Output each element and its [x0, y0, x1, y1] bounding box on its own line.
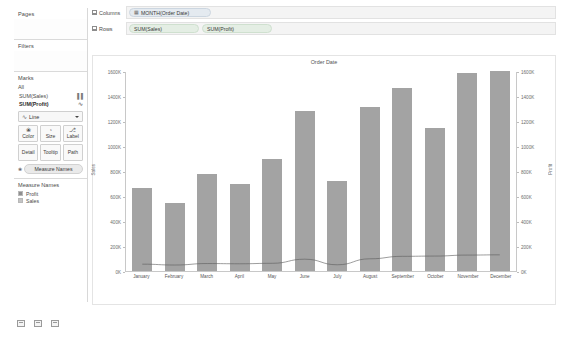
filters-title: Filters: [14, 40, 87, 51]
legend-title: Measure Names: [14, 179, 87, 190]
pages-title: Pages: [14, 8, 87, 19]
pages-dropzone[interactable]: [14, 19, 87, 39]
axis-tick-mark: [517, 247, 519, 248]
line-chart-icon: ∿: [78, 101, 83, 107]
axis-tick-mark: [517, 197, 519, 198]
mark-type-label: Line: [29, 114, 39, 120]
line-mark-icon: ∿: [22, 113, 27, 120]
marks-item-sum-profit[interactable]: SUM(Profit) ∿: [14, 100, 87, 109]
new-story-icon[interactable]: [51, 320, 59, 327]
y-axis-profit-label: Profit: [548, 164, 553, 175]
axis-tick-label: 400K: [521, 220, 532, 225]
new-worksheet-icon[interactable]: [17, 320, 25, 327]
marks-item-all[interactable]: All: [14, 83, 87, 92]
legend-item-sales-label: Sales: [26, 198, 39, 204]
axis-tick-label: 200K: [521, 245, 532, 250]
y-axis-profit[interactable]: Profit 0K200K400K600K800K1000K1200K1400K…: [517, 72, 555, 272]
measure-names-pill[interactable]: ❀ Measure Names: [18, 164, 83, 174]
x-axis-month-label[interactable]: November: [452, 274, 485, 286]
shelf-area: Columns ▦ MONTH(Order Date) Rows SUM(Sal…: [92, 6, 556, 38]
legend-item-profit[interactable]: Profit: [14, 190, 87, 197]
marks-buttons-row-1: ❀ Color ◔ Size ⎇ Label: [18, 125, 83, 142]
x-axis-month-label[interactable]: December: [484, 274, 517, 286]
x-axis-month-label[interactable]: August: [354, 274, 387, 286]
size-button[interactable]: ◔ Size: [40, 125, 60, 142]
axis-tick-label: 0K: [521, 270, 527, 275]
axis-tick-label: 1200K: [521, 120, 534, 125]
marks-sum-profit-label: SUM(Profit): [19, 101, 49, 107]
chevron-down-icon[interactable]: [75, 116, 79, 118]
filters-dropzone[interactable]: [14, 51, 87, 71]
calendar-icon: ▦: [134, 10, 139, 15]
axis-tick-mark: [517, 222, 519, 223]
x-axis-month-label[interactable]: March: [190, 274, 223, 286]
marks-item-sum-sales[interactable]: SUM(Sales) ▐▐: [14, 92, 87, 101]
pill-sum-sales[interactable]: SUM(Sales): [129, 24, 199, 33]
mark-type-dropdown[interactable]: ∿ Line: [18, 111, 83, 122]
axis-tick-mark: [517, 172, 519, 173]
legend-item-profit-label: Profit: [26, 191, 38, 197]
x-axis-month-label[interactable]: May: [256, 274, 289, 286]
rows-shelf-dropzone[interactable]: SUM(Sales) SUM(Profit): [126, 22, 556, 35]
measure-names-pill-label: Measure Names: [24, 164, 83, 174]
chart-canvas[interactable]: Order Date Sales 0K200K400K600K800K1000K…: [92, 55, 556, 305]
rows-shelf-label-group: Rows: [92, 26, 126, 32]
chart-title: Order Date: [93, 59, 555, 65]
axis-tick-mark: [517, 72, 519, 73]
detail-button[interactable]: Detail: [18, 144, 38, 161]
size-label: Size: [46, 134, 56, 139]
tooltip-label: Tooltip: [43, 150, 57, 155]
x-axis-month-label[interactable]: September: [386, 274, 419, 286]
label-button[interactable]: ⎇ Label: [63, 125, 83, 142]
pill-month-order-date[interactable]: ▦ MONTH(Order Date): [129, 8, 211, 17]
pages-card[interactable]: Pages: [14, 8, 87, 40]
label-label: Label: [67, 134, 79, 139]
axis-tick-label: 1600K: [521, 70, 534, 75]
axis-tick-label: 600K: [110, 195, 121, 200]
columns-shelf: Columns ▦ MONTH(Order Date): [92, 6, 556, 19]
pill-month-order-date-label: MONTH(Order Date): [141, 10, 189, 16]
y-axis-sales[interactable]: Sales 0K200K400K600K800K1000K1200K1400K1…: [93, 72, 125, 272]
sales-color-swatch: [18, 198, 23, 203]
axis-tick-label: 600K: [521, 195, 532, 200]
profit-line-path: [142, 255, 500, 265]
new-dashboard-icon[interactable]: [34, 320, 42, 327]
x-axis-month-label[interactable]: February: [158, 274, 191, 286]
x-axis-month-label[interactable]: January: [125, 274, 158, 286]
x-axis-month-label[interactable]: April: [223, 274, 256, 286]
columns-grid-icon: [92, 10, 97, 15]
measure-names-legend: Measure Names Profit Sales: [14, 179, 87, 208]
columns-shelf-label-group: Columns: [92, 10, 126, 16]
profit-color-swatch: [18, 191, 23, 196]
y-axis-sales-label: Sales: [91, 164, 96, 176]
x-axis-month-label[interactable]: June: [288, 274, 321, 286]
axis-tick-mark: [123, 272, 125, 273]
marks-buttons-row-2: Detail Tooltip Path: [18, 144, 83, 161]
columns-shelf-dropzone[interactable]: ▦ MONTH(Order Date): [126, 6, 556, 19]
color-button[interactable]: ❀ Color: [18, 125, 38, 142]
pill-sum-profit[interactable]: SUM(Profit): [202, 24, 272, 33]
axis-tick-label: 400K: [110, 220, 121, 225]
axis-tick-label: 1600K: [108, 70, 121, 75]
color-label: Color: [22, 134, 34, 139]
axis-tick-mark: [517, 97, 519, 98]
axis-tick-label: 0K: [115, 270, 121, 275]
legend-item-sales[interactable]: Sales: [14, 197, 87, 204]
axis-tick-label: 800K: [110, 170, 121, 175]
rows-shelf: Rows SUM(Sales) SUM(Profit): [92, 22, 556, 35]
x-axis-month-label[interactable]: October: [419, 274, 452, 286]
x-axis-months[interactable]: JanuaryFebruaryMarchAprilMayJuneJulyAugu…: [125, 274, 517, 286]
rows-shelf-label: Rows: [99, 26, 112, 32]
bar-chart-icon: ▐▐: [75, 93, 83, 99]
axis-tick-mark: [517, 122, 519, 123]
filters-card[interactable]: Filters: [14, 40, 87, 72]
plot-area[interactable]: [125, 72, 517, 272]
x-axis-month-label[interactable]: July: [321, 274, 354, 286]
path-button[interactable]: Path: [63, 144, 83, 161]
sheet-tab-bar: [17, 320, 59, 327]
color-icon: ❀: [18, 166, 22, 172]
columns-shelf-label: Columns: [99, 10, 120, 16]
axis-tick-label: 1200K: [108, 120, 121, 125]
tooltip-button[interactable]: Tooltip: [40, 144, 60, 161]
marks-sum-sales-label: SUM(Sales): [19, 93, 48, 99]
